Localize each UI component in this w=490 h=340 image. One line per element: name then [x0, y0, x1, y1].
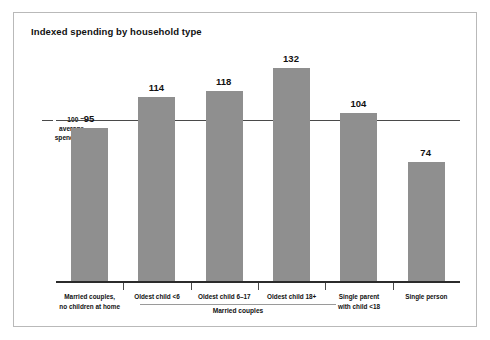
plot-area: 9511411813210474: [56, 47, 460, 283]
category-label-line: no children at home: [47, 302, 133, 312]
bar-value-label: 95: [56, 113, 122, 124]
chart-frame: Indexed spending by household type 100 =…: [13, 12, 477, 327]
bar[interactable]: [408, 162, 445, 281]
axis-tick: [123, 283, 124, 290]
chart-title: Indexed spending by household type: [31, 26, 202, 37]
bar[interactable]: [273, 68, 310, 281]
bar-value-label: 114: [123, 82, 189, 93]
category-label: Single person: [383, 292, 469, 302]
reference-line-stub: [42, 120, 53, 121]
bar-value-label: 104: [325, 98, 391, 109]
group-bracket-label: Married couples: [140, 307, 336, 314]
group-bracket-rule: [140, 304, 336, 305]
bar[interactable]: [138, 97, 175, 281]
category-label-line: Single person: [383, 292, 469, 302]
bar[interactable]: [71, 128, 108, 281]
bar[interactable]: [206, 91, 243, 281]
axis-tick: [191, 283, 192, 290]
axis-tick: [325, 283, 326, 290]
axis-tick: [258, 283, 259, 290]
bar-value-label: 118: [191, 76, 257, 87]
bar[interactable]: [340, 113, 377, 281]
bar-value-label: 74: [393, 147, 459, 158]
axis-tick: [393, 283, 394, 290]
bar-value-label: 132: [258, 53, 324, 64]
